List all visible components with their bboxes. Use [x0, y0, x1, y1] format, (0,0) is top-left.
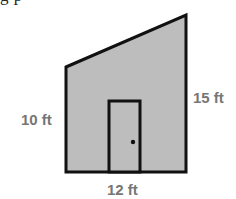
door-knob — [131, 140, 135, 144]
left-height-label: 10 ft — [21, 111, 52, 128]
right-height-label: 15 ft — [193, 89, 224, 106]
base-width-label: 12 ft — [107, 181, 138, 198]
door — [109, 101, 140, 172]
shed-diagram: 10 ft 15 ft 12 ft — [0, 0, 236, 199]
